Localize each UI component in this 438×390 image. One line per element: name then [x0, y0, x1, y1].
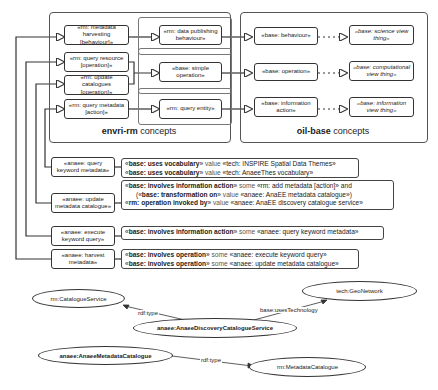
rm-query-metadata-box[interactable]: «rm: query metadata [action]»: [64, 99, 129, 119]
relation-box-query-keyword: «base: uses vocabulary» value «tech: INS…: [121, 158, 359, 178]
rdf-node-metadata-catalogue-class[interactable]: rm:MetadataCatalogue: [249, 357, 366, 377]
anaee-query-keyword-metadata-box[interactable]: «anaee: query keyword metadata»: [51, 157, 115, 177]
relation-line: «base: uses vocabulary» value «tech: INS…: [125, 160, 355, 169]
rdf-node-catalogue-service[interactable]: rm:CatalogueService: [32, 289, 125, 308]
anaee-update-metadata-catalogue-box[interactable]: «anaee: update metadata catalogue»: [51, 193, 115, 213]
relation-box-harvest: «base: involves operation» some «anaee: …: [121, 249, 359, 269]
rm-update-catalogues-box[interactable]: «rm: update catalogues [operation]»: [64, 75, 129, 95]
envri-rm-label: envri-rm concepts: [49, 126, 229, 136]
rdf-node-discovery-service[interactable]: anaee:AnaeeDiscoveryCatalogueService: [133, 318, 297, 338]
relation-line: «base: involves information action» some…: [125, 182, 390, 191]
relation-line: «base: uses vocabulary» value «tech: Ana…: [125, 169, 355, 178]
base-operation-box[interactable]: «base: operation»: [254, 63, 318, 81]
relation-line: «base: involves operation» some «anaee: …: [125, 260, 355, 269]
edge-label-rdf-type-2: rdf:type: [200, 357, 222, 363]
relation-line: «rm: operation invoked by» value «anaee:…: [125, 199, 390, 208]
base-behaviour-box[interactable]: «base: behaviour»: [254, 27, 318, 45]
anaee-harvest-metadata-box[interactable]: «anaee: harvest metadata»: [51, 249, 115, 269]
oil-base-label: oil-base concepts: [240, 126, 426, 136]
base-science-view-thing-box[interactable]: «base: science view thing»: [349, 25, 414, 45]
rdf-node-geonetwork[interactable]: tech:GeoNetwork: [302, 281, 417, 301]
base-information-action-box[interactable]: «base: information action»: [254, 97, 318, 117]
rm-query-resource-box[interactable]: «rm: query resource [operation]»: [64, 52, 129, 72]
rdf-node-metadata-catalogue-instance[interactable]: anaee:AnaeeMetadataCatalogue: [38, 346, 173, 365]
edge-label-rdf-type: rdf:type: [137, 310, 159, 316]
edge-label-uses-technology: base:usesTechnology: [259, 307, 319, 313]
relation-line: («base: transformation on» value «anaee:…: [125, 191, 390, 200]
relation-box-update-catalogue: «base: involves information action» some…: [121, 180, 394, 210]
relation-line: «base: involves operation» some «anaee: …: [125, 251, 355, 260]
anaee-execute-keyword-query-box[interactable]: «anaee: execute keyword query»: [51, 226, 115, 246]
rm-query-entity-box[interactable]: «rm: query entity»: [159, 99, 222, 119]
base-information-view-thing-box[interactable]: «base: information view thing»: [349, 97, 414, 117]
rm-metadata-harvesting-box[interactable]: «rm: metadata harvesting [behaviour]»: [64, 25, 129, 45]
relation-line: «base: involves information action» some…: [125, 228, 380, 237]
base-simple-operation-box[interactable]: «base: simple operation»: [159, 62, 222, 82]
base-computational-view-thing-box[interactable]: «base: computational view thing»: [349, 61, 414, 81]
rm-data-publishing-box[interactable]: «rm: data publishing behaviour»: [159, 25, 222, 45]
relation-box-execute-query: «base: involves information action» some…: [121, 226, 384, 240]
